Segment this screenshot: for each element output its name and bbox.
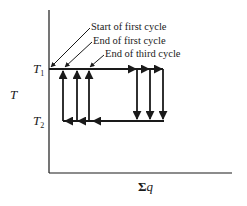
annotation-start-first-cycle: Start of first cycle xyxy=(91,21,167,32)
leader-start-first xyxy=(51,28,90,67)
level-t1-sub: 1 xyxy=(40,69,44,78)
level-t2-label: T2 xyxy=(33,113,44,130)
leader-end-third xyxy=(90,55,104,67)
x-axis-label: Σq xyxy=(138,179,154,194)
annotation-end-third-cycle: End of third cycle xyxy=(105,48,181,59)
annotation-end-first-cycle: End of first cycle xyxy=(93,35,166,46)
level-t2-sub: 2 xyxy=(40,121,44,130)
x-axis-label-var: q xyxy=(147,179,154,194)
y-axis-label: T xyxy=(10,87,18,102)
x-axis-label-symbol: Σ xyxy=(138,179,147,194)
cycle-diagram: T Σq T1 T2 Start of first cycle End of f… xyxy=(0,0,247,206)
level-t1-label: T1 xyxy=(33,61,44,78)
leader-end-first xyxy=(65,42,92,67)
